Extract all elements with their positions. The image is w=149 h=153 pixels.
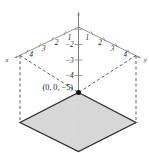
tick-label-y-3: 3 — [110, 45, 115, 53]
point-marker-0-0-minus5 — [76, 90, 81, 95]
tick-label-x-4: 4 — [29, 51, 33, 59]
x-axis-label: x — [5, 56, 9, 63]
tick-label-z-minus-3: −3 — [65, 57, 74, 65]
figure-container: 1 2 3 4 1 2 3 4 −2 −3 −4 x y — [0, 0, 149, 153]
y-axis — [79, 27, 141, 58]
y-axis-label: y — [143, 56, 147, 63]
coordinate-system-diagram: 1 2 3 4 1 2 3 4 −2 −3 −4 x y — [0, 0, 149, 153]
tick-label-z-minus-2: −2 — [65, 41, 74, 49]
tick-label-z-minus-4: −4 — [65, 72, 74, 80]
tick-label-x-2: 2 — [55, 39, 59, 47]
tick-label-y-2: 2 — [98, 39, 102, 47]
tick-label-x-3: 3 — [41, 45, 46, 53]
dashed-edge-right — [79, 56, 137, 93]
plane-z-equals-minus-5 — [20, 93, 136, 152]
tick-label-y-4: 4 — [123, 51, 127, 59]
point-label: (0, 0, −5) — [42, 83, 73, 92]
tick-label-y-1: 1 — [86, 34, 90, 42]
